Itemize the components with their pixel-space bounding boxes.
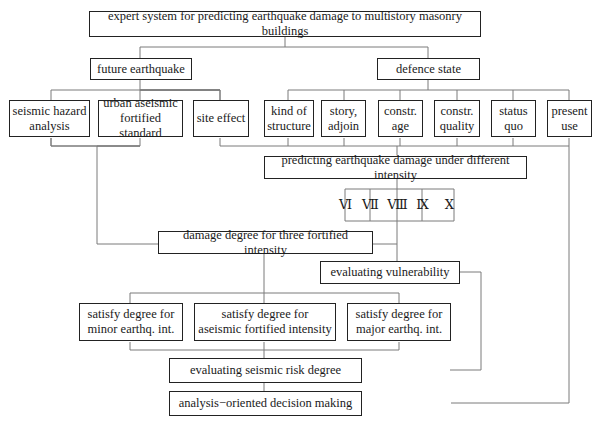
node-line: quality xyxy=(440,119,475,134)
seismic-hazard-node: seismic hazard analysis xyxy=(9,100,90,137)
node-line: analysis xyxy=(29,119,69,134)
vulnerability-node: evaluating vulnerability xyxy=(320,261,460,284)
node-line: status xyxy=(499,104,527,119)
seismic-risk-node: evaluating seismic risk degree xyxy=(169,358,362,383)
node-line: story, xyxy=(330,104,357,119)
node-line: major earthq. int. xyxy=(356,322,442,337)
node-line: present xyxy=(551,104,587,119)
urban-standard-node: urban aseismic fortified standard xyxy=(98,100,183,137)
satisfy-major-node: satisfy degree for major earthq. int. xyxy=(347,303,451,341)
intensity-ix: Ⅸ xyxy=(412,198,432,212)
node-line: minor earthq. int. xyxy=(88,322,175,337)
node-line: constr. xyxy=(441,104,474,119)
node-line: site effect xyxy=(197,111,246,126)
intensity-vi: Ⅵ xyxy=(335,198,355,212)
present-use-node: present use xyxy=(547,100,592,137)
root-node: expert system for predicting earthquake … xyxy=(89,11,481,37)
site-effect-node: site effect xyxy=(193,100,249,137)
node-line: structure xyxy=(267,119,311,134)
node-line: age xyxy=(392,119,409,134)
node-line: adjoin xyxy=(328,119,359,134)
seismic-risk-label: evaluating seismic risk degree xyxy=(190,363,341,378)
decision-label: analysis−oriented decision making xyxy=(179,396,353,411)
intensity-x: Ⅹ xyxy=(439,198,459,212)
satisfy-fortified-node: satisfy degree for aseismic fortified in… xyxy=(194,303,336,341)
predicting-label: predicting earthquake damage under diffe… xyxy=(267,153,524,183)
node-line: seismic hazard xyxy=(13,104,87,119)
node-line: aseismic fortified intensity xyxy=(198,322,331,337)
node-line: satisfy degree for xyxy=(356,307,443,322)
defence-state-node: defence state xyxy=(377,58,480,80)
story-adjoin-node: story, adjoin xyxy=(321,100,366,137)
constr-quality-node: constr. quality xyxy=(434,100,480,137)
constr-age-node: constr. age xyxy=(378,100,423,137)
kind-structure-node: kind of structure xyxy=(264,100,314,137)
node-line: satisfy degree for xyxy=(222,307,309,322)
node-line: satisfy degree for xyxy=(88,307,175,322)
node-line: use xyxy=(561,119,578,134)
damage-degree-node: damage degree for three fortified intens… xyxy=(158,231,373,254)
decision-node: analysis−oriented decision making xyxy=(169,391,362,416)
future-earthquake-label: future earthquake xyxy=(97,62,185,77)
node-line: urban aseismic xyxy=(103,96,178,111)
defence-state-label: defence state xyxy=(396,62,461,77)
intensity-vii: Ⅶ xyxy=(360,198,380,212)
future-earthquake-node: future earthquake xyxy=(90,58,192,80)
satisfy-minor-node: satisfy degree for minor earthq. int. xyxy=(79,303,183,341)
status-quo-node: status quo xyxy=(491,100,536,137)
damage-degree-label: damage degree for three fortified intens… xyxy=(161,228,370,258)
intensity-viii: Ⅷ xyxy=(387,198,407,212)
node-line: kind of xyxy=(271,104,307,119)
root-node-label: expert system for predicting earthquake … xyxy=(92,9,478,39)
predicting-node: predicting earthquake damage under diffe… xyxy=(264,156,527,179)
vulnerability-label: evaluating vulnerability xyxy=(330,265,449,280)
node-line: constr. xyxy=(384,104,417,119)
node-line: fortified standard xyxy=(101,111,180,141)
node-line: quo xyxy=(504,119,523,134)
